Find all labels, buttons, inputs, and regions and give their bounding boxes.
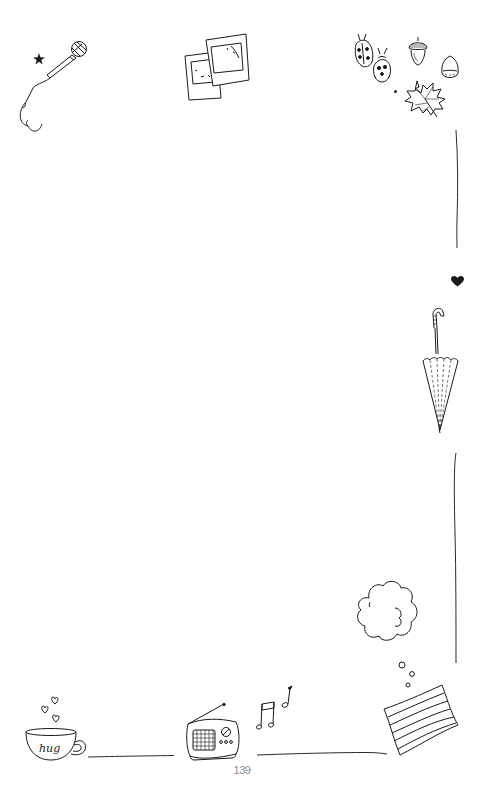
- margin-line-bottom: [453, 453, 459, 665]
- music-notes-icon: [256, 686, 296, 734]
- maple-leaf-icon: [403, 79, 449, 121]
- notebook-page: hug: [0, 0, 487, 793]
- mug-icon: hug: [25, 728, 89, 762]
- hearts-steam-icon: [38, 694, 62, 724]
- polaroid-photos-icon: [183, 30, 253, 102]
- heart-icon: [451, 276, 464, 287]
- dot-icon: [394, 90, 397, 93]
- ladybug-icon: [352, 32, 400, 82]
- cloud-icon: [355, 580, 423, 648]
- star-icon: [33, 53, 45, 65]
- mug-label: hug: [39, 742, 60, 755]
- bottom-line-right: [257, 749, 387, 757]
- radio-icon: [184, 704, 244, 762]
- margin-line-top: [454, 130, 460, 250]
- microphone-icon: [14, 38, 94, 138]
- pillow-icon: [382, 681, 462, 757]
- umbrella-icon: [422, 306, 468, 434]
- acorn-icon: [407, 37, 429, 67]
- bottom-line-left: [88, 754, 174, 760]
- page-number: 139: [230, 764, 254, 776]
- chestnut-icon: [440, 55, 460, 81]
